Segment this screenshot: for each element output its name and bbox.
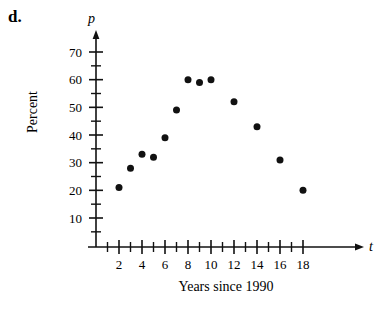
data-point bbox=[116, 184, 123, 191]
data-point bbox=[150, 154, 157, 161]
scatter-plot-figure: d. p t Percent Years since 1990 10203040… bbox=[0, 0, 391, 315]
data-points-group bbox=[116, 76, 307, 194]
x-axis-arrowhead bbox=[355, 244, 364, 251]
x-axis-tick-label: 14 bbox=[245, 258, 269, 271]
y-axis-tick-label: 10 bbox=[56, 212, 82, 225]
data-point bbox=[300, 187, 307, 194]
x-axis-tick-label: 16 bbox=[268, 258, 292, 271]
y-axis-arrowhead bbox=[93, 30, 100, 39]
data-point bbox=[162, 134, 169, 141]
y-axis-tick-label: 20 bbox=[56, 184, 82, 197]
y-axis-tick-label: 70 bbox=[56, 46, 82, 59]
x-axis-tick-label: 18 bbox=[291, 258, 315, 271]
data-point bbox=[127, 165, 134, 172]
data-point bbox=[139, 151, 146, 158]
data-point bbox=[196, 79, 203, 86]
data-point bbox=[254, 123, 261, 130]
data-point bbox=[173, 107, 180, 114]
x-axis-tick-label: 8 bbox=[176, 258, 200, 271]
data-point bbox=[277, 156, 284, 163]
y-axis-tick-label: 30 bbox=[56, 156, 82, 169]
data-point bbox=[185, 76, 192, 83]
x-axis-tick-label: 12 bbox=[222, 258, 246, 271]
x-axis-tick-label: 10 bbox=[199, 258, 223, 271]
axes-group bbox=[88, 30, 364, 250]
data-point bbox=[231, 98, 238, 105]
x-axis-tick-label: 2 bbox=[107, 258, 131, 271]
y-axis-tick-label: 50 bbox=[56, 101, 82, 114]
data-point bbox=[208, 76, 215, 83]
x-axis-tick-label: 4 bbox=[130, 258, 154, 271]
y-axis-tick-label: 60 bbox=[56, 73, 82, 86]
x-axis-tick-label: 6 bbox=[153, 258, 177, 271]
y-axis-tick-label: 40 bbox=[56, 129, 82, 142]
